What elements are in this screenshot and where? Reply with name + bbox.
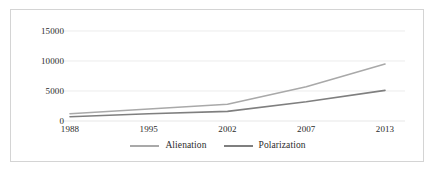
x-tick-label: 1995 <box>126 124 172 135</box>
x-tick-label: 2013 <box>362 124 408 135</box>
legend-entry-alienation[interactable]: Alienation <box>130 140 206 151</box>
legend-label: Alienation <box>165 140 206 151</box>
legend-line-icon <box>130 145 159 147</box>
legend-entry-polarization[interactable]: Polarization <box>224 140 306 151</box>
legend-label: Polarization <box>259 140 306 151</box>
x-tick-label: 1988 <box>47 124 93 135</box>
legend-line-icon <box>224 145 253 147</box>
chart-legend: AlienationPolarization <box>0 140 436 151</box>
x-tick-label: 2007 <box>283 124 329 135</box>
x-tick-label: 2002 <box>205 124 251 135</box>
